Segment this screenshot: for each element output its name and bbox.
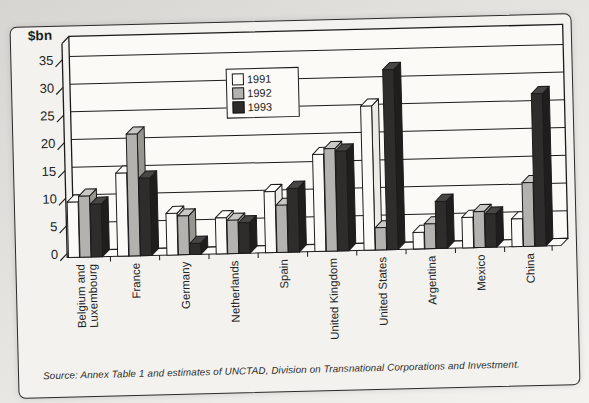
y-axis-unit-label: $bn <box>28 28 53 44</box>
category-label-argentina: Argentina <box>425 255 438 305</box>
y-tick-label-20: 20 <box>41 136 56 151</box>
y-axis-tick-5 <box>59 226 66 233</box>
bar-1993-belgium-and-luxembourg <box>90 204 102 257</box>
legend-swatch-1993 <box>232 101 244 113</box>
bar-1992-mexico <box>473 211 485 247</box>
category-label-china: China <box>524 253 537 284</box>
bar-1993-netherlands <box>238 223 250 254</box>
bar-1992-netherlands <box>227 220 239 254</box>
bar-group-mexico <box>462 204 504 248</box>
y-axis-tick-30 <box>56 87 63 94</box>
bar-1992-france <box>126 134 140 256</box>
axis-top-bevel <box>62 36 69 43</box>
bar-1991-spain <box>264 191 276 252</box>
y-axis-tick-25 <box>57 115 64 122</box>
legend-item-1993: 1993 <box>232 99 298 115</box>
y-tick-label-35: 35 <box>39 53 54 68</box>
bar-1992-argentina <box>424 224 436 249</box>
legend-box: 199119921993 <box>226 67 300 119</box>
y-axis-tick-0 <box>60 254 67 261</box>
bar-1992-china <box>522 182 535 246</box>
category-label-belgium-and-luxembourg-line2: Luxembourg <box>86 264 100 328</box>
bar-1992-united-states <box>375 228 387 250</box>
bar-1993-mexico <box>485 214 497 248</box>
y-axis-tick-10 <box>59 198 66 205</box>
bar-1993-france <box>139 178 152 256</box>
bar-1991-belgium-and-luxembourg <box>67 202 79 258</box>
y-axis-line <box>62 44 67 258</box>
bar-1991-germany <box>166 213 178 255</box>
bar-1991-china <box>511 219 523 247</box>
y-tick-label-30: 30 <box>39 81 54 96</box>
category-label-spain: Spain <box>278 259 291 289</box>
y-tick-label-15: 15 <box>41 164 56 179</box>
bar-1993-argentina <box>435 201 447 248</box>
bar-1993-united-kingdom <box>335 151 348 251</box>
legend-label-1991: 1991 <box>247 73 272 85</box>
bar-1992-germany <box>178 216 190 255</box>
bar-1991-netherlands <box>215 218 227 254</box>
legend-swatch-1991 <box>232 73 244 85</box>
y-tick-label-25: 25 <box>40 108 55 123</box>
bar-1993-spain <box>287 188 300 252</box>
category-label-netherlands: Netherlands <box>228 260 242 323</box>
y-tick-label-10: 10 <box>42 191 57 206</box>
legend-label-1992: 1992 <box>247 87 272 99</box>
figure-frame: 05101520253035Belgium andLuxembourgFranc… <box>10 13 581 399</box>
bar-group-united-kingdom <box>312 141 356 251</box>
category-label-united-states: United States <box>376 256 390 326</box>
y-axis-tick-20 <box>57 143 64 150</box>
legend-swatch-1992 <box>232 87 244 99</box>
bar-1991-france <box>116 173 129 256</box>
bar-1992-belgium-and-luxembourg <box>78 196 90 257</box>
legend-label-1993: 1993 <box>247 101 272 113</box>
category-label-germany: Germany <box>179 261 192 309</box>
category-label-france: France <box>130 263 143 299</box>
category-label-mexico: Mexico <box>475 254 488 291</box>
bar-1991-argentina <box>413 232 424 249</box>
y-axis-tick-35 <box>55 60 62 67</box>
bar-1993-germany <box>190 243 201 254</box>
bar-group-belgium-and-luxembourg <box>67 189 110 258</box>
bar-1992-spain <box>276 205 288 252</box>
y-tick-label-0: 0 <box>51 247 59 262</box>
category-label-united-kingdom: United Kingdom <box>327 258 341 340</box>
y-axis-tick-15 <box>58 171 65 178</box>
bar-group-netherlands <box>215 210 257 254</box>
y-tick-label-5: 5 <box>50 219 58 234</box>
bar-1991-mexico <box>462 217 474 248</box>
